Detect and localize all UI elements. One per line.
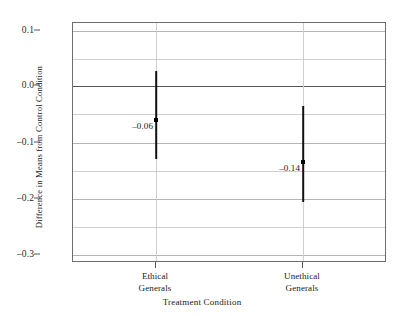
x-tick-mark-unethical [302, 262, 303, 268]
gridline-y--0.1 [73, 143, 385, 144]
y-tick-label-0.1: 0.1 [22, 25, 34, 35]
y-tick-label--0.3: –0.3 [17, 249, 34, 259]
x-tick-label-ethical-generals: Ethical Generals [139, 271, 172, 294]
data-label-unethical-generals: –0.14 [279, 163, 300, 173]
data-point-ethical-generals[interactable] [154, 118, 158, 122]
gridline-y-0.1 [73, 31, 385, 32]
y-tick-label-0.0: 0.0 [22, 80, 34, 90]
chart-figure: –0.06 –0.14 0.1 0.0 –0.1 –0.2 –0.3 Diffe… [0, 0, 404, 316]
data-label-ethical-generals: –0.06 [132, 121, 153, 131]
gridline-y--0.2 [73, 199, 385, 200]
data-point-unethical-generals[interactable] [301, 160, 305, 164]
x-tick-label-unethical-line1: Unethical [284, 271, 320, 283]
y-axis: 0.1 0.0 –0.1 –0.2 –0.3 Difference in Mea… [0, 0, 72, 316]
gridline-y-zero [73, 86, 385, 87]
y-tick-label--0.1: –0.1 [17, 137, 34, 147]
gridline-y-0.05 [73, 59, 385, 60]
x-tick-label-unethical-generals: Unethical Generals [284, 271, 320, 294]
x-tick-label-ethical-line1: Ethical [139, 271, 172, 283]
gridline-y--0.15 [73, 171, 385, 172]
gridline-y--0.3 [73, 255, 385, 256]
x-tick-mark-ethical [155, 262, 156, 268]
y-tick-label--0.2: –0.2 [17, 193, 34, 203]
x-axis-title: Treatment Condition [0, 297, 404, 307]
gridline-y--0.25 [73, 227, 385, 228]
x-tick-label-ethical-line2: Generals [139, 283, 172, 295]
gridline-y--0.05 [73, 114, 385, 115]
plot-area: –0.06 –0.14 [72, 22, 386, 262]
y-tick-mark-0.1 [34, 30, 40, 31]
errorbar-ethical-generals [155, 71, 157, 159]
y-axis-title: Difference in Means from Control Conditi… [34, 32, 44, 262]
errorbar-unethical-generals [302, 106, 304, 202]
x-tick-label-unethical-line2: Generals [284, 283, 320, 295]
